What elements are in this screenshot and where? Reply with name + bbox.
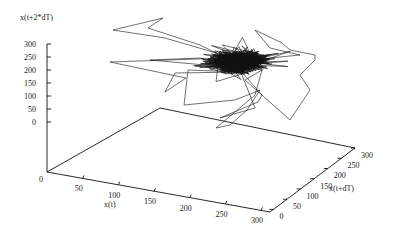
x-tick-label: 100 bbox=[108, 191, 120, 200]
x-axis-title: x(t) bbox=[104, 200, 116, 209]
x-tick-label: 200 bbox=[180, 204, 192, 213]
z-tick-label: 100 bbox=[24, 92, 36, 101]
z-tick-label: 200 bbox=[24, 66, 36, 75]
x-tick bbox=[261, 207, 263, 210]
x-tick bbox=[190, 195, 192, 198]
y-tick-label: 200 bbox=[334, 171, 346, 180]
y-tick-label: 300 bbox=[361, 151, 373, 160]
z-tick-label: 50 bbox=[28, 105, 36, 114]
x-tick bbox=[225, 201, 227, 204]
trajectory bbox=[110, 18, 315, 128]
x-tick-label: 150 bbox=[144, 197, 156, 206]
back-right-floor-edge bbox=[160, 108, 355, 148]
axes-frame bbox=[47, 44, 355, 212]
x-tick bbox=[83, 175, 85, 178]
z-tick-label: 150 bbox=[24, 79, 36, 88]
z-tick-label: 300 bbox=[24, 40, 36, 49]
x-tick-label: 50 bbox=[75, 184, 83, 193]
y-tick-label: 100 bbox=[307, 192, 319, 201]
x-tick bbox=[118, 182, 120, 185]
z-axis-title: x(t+2*dT) bbox=[20, 13, 53, 22]
z-tick-label: 0 bbox=[32, 118, 36, 127]
y-tick-label: 250 bbox=[347, 161, 359, 170]
phase-space-3d-plot: 0501001502002503000501001502002503000501… bbox=[0, 0, 396, 228]
x-tick-label: 250 bbox=[215, 210, 227, 219]
trajectory-path bbox=[110, 18, 315, 128]
y-tick-label: 0 bbox=[279, 212, 283, 221]
axis-ticks: 0501001502002503000501001502002503000501… bbox=[24, 40, 373, 225]
back-left-floor-edge bbox=[47, 108, 160, 172]
axis-labels: x(t+2*dT) x(t) x(t+dT) bbox=[20, 13, 354, 209]
y-tick-label: 50 bbox=[293, 202, 301, 211]
y-axis-title: x(t+dT) bbox=[329, 184, 354, 193]
z-tick-label: 250 bbox=[24, 53, 36, 62]
x-tick-label: 0 bbox=[39, 175, 43, 184]
x-tick bbox=[154, 188, 156, 191]
x-tick-label: 300 bbox=[251, 216, 263, 225]
